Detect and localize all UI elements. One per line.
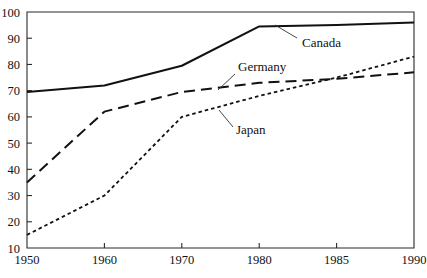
x-tick-label: 1970 xyxy=(169,253,194,267)
series-line-canada xyxy=(27,22,414,91)
series-line-japan xyxy=(27,57,414,235)
series-group xyxy=(27,22,414,234)
line-chart: 1020304050607080901001950196019701980198… xyxy=(0,0,427,278)
y-tick-label: 30 xyxy=(8,189,21,203)
y-tick-label: 70 xyxy=(8,84,21,98)
x-tick-label: 1985 xyxy=(324,253,349,267)
series-label-canada: Canada xyxy=(302,35,341,50)
x-tick-label: 1990 xyxy=(402,253,427,267)
x-tick-label: 1960 xyxy=(92,253,117,267)
y-tick-label: 90 xyxy=(8,32,21,46)
annotation-group: CanadaGermanyJapan xyxy=(218,25,341,137)
x-tick-label: 1950 xyxy=(15,253,40,267)
y-tick-label: 80 xyxy=(8,58,21,72)
series-line-germany xyxy=(27,72,414,182)
y-tick-label: 20 xyxy=(8,215,21,229)
y-tick-label: 40 xyxy=(8,163,21,177)
series-label-japan: Japan xyxy=(236,122,266,137)
x-axis: 195019601970198019851990 xyxy=(15,243,427,267)
series-label-germany: Germany xyxy=(238,59,287,74)
x-tick-label: 1980 xyxy=(247,253,272,267)
chart-canvas: 1020304050607080901001950196019701980198… xyxy=(0,0,427,278)
leader-line-japan xyxy=(219,110,233,127)
y-tick-label: 60 xyxy=(8,110,21,124)
y-tick-label: 50 xyxy=(8,137,21,151)
y-tick-label: 100 xyxy=(1,6,20,20)
